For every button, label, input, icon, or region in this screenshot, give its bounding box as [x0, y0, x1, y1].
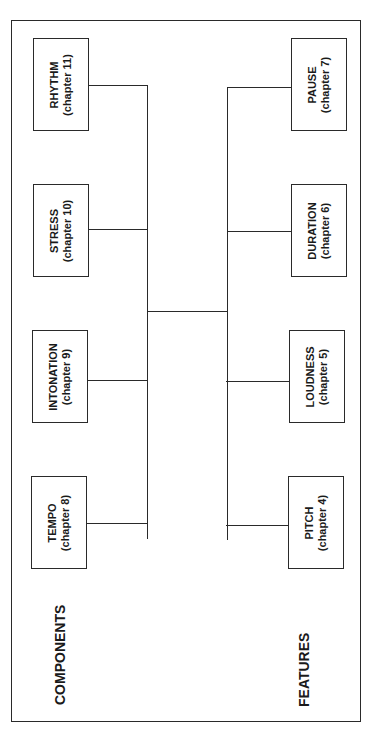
- feature-box-pitch: PITCH(chapter 4): [288, 476, 344, 569]
- box-title: PITCH: [303, 476, 316, 569]
- box-chapter: (chapter 5): [317, 330, 330, 423]
- connector-loudness: [226, 381, 289, 382]
- box-title: TEMPO: [46, 476, 59, 569]
- connector-pitch: [226, 525, 288, 526]
- box-title: INTONATION: [47, 330, 60, 423]
- box-title: DURATION: [306, 184, 319, 277]
- box-chapter: (chapter 11): [61, 38, 74, 131]
- connector-tempo: [87, 523, 148, 524]
- connector-intonation: [88, 380, 147, 381]
- box-chapter: (chapter 6): [319, 184, 332, 277]
- box-chapter: (chapter 7): [319, 38, 332, 131]
- box-chapter: (chapter 9): [60, 330, 73, 423]
- box-title: LOUDNESS: [304, 330, 317, 423]
- feature-box-loudness: LOUDNESS(chapter 5): [289, 330, 345, 423]
- box-title: RHYTHM: [48, 38, 61, 131]
- box-title: PAUSE: [306, 38, 319, 131]
- box-chapter: (chapter 10): [61, 184, 74, 277]
- feature-box-pause: PAUSE(chapter 7): [291, 38, 347, 131]
- box-chapter: (chapter 4): [316, 476, 329, 569]
- features-trunk-line: [227, 87, 228, 540]
- component-box-rhythm: RHYTHM(chapter 11): [33, 38, 89, 131]
- center-bridge-line: [147, 311, 228, 312]
- connector-rhythm: [89, 85, 148, 86]
- connector-pause: [227, 87, 291, 88]
- component-box-tempo: TEMPO(chapter 8): [31, 476, 87, 569]
- box-chapter: (chapter 8): [59, 476, 72, 569]
- components-heading: COMPONENTS: [52, 605, 68, 705]
- box-title: STRESS: [48, 184, 61, 277]
- connector-duration: [227, 231, 291, 232]
- component-box-intonation: INTONATION(chapter 9): [32, 330, 88, 423]
- component-box-stress: STRESS(chapter 10): [33, 184, 89, 277]
- feature-box-duration: DURATION(chapter 6): [291, 184, 347, 277]
- connector-stress: [89, 229, 148, 230]
- features-heading: FEATURES: [296, 633, 312, 707]
